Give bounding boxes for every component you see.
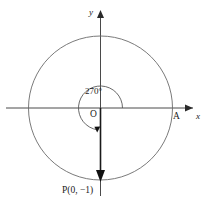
point-a-label: A bbox=[173, 112, 180, 122]
angle-measure-label: 270° bbox=[85, 87, 102, 96]
point-p-label: P(0, −1) bbox=[62, 186, 93, 196]
unit-circle-diagram bbox=[0, 0, 209, 204]
y-axis-label: y bbox=[89, 8, 93, 17]
y-axis-arrowhead bbox=[97, 10, 104, 18]
x-axis-arrowhead bbox=[185, 105, 193, 112]
origin-label: O bbox=[90, 110, 97, 120]
geometry-figure: y x 270° O A P(0, −1) bbox=[0, 0, 209, 204]
x-axis-label: x bbox=[196, 112, 200, 121]
